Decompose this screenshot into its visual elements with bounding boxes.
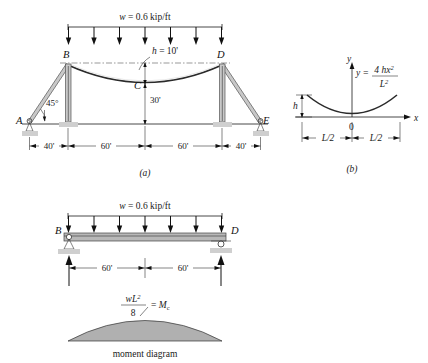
- panel-id-b: (b): [346, 164, 357, 175]
- load-arrow: [219, 27, 224, 45]
- load-label-a: w = 0.6 kip/ft: [119, 12, 171, 22]
- point-label-b: B: [63, 49, 70, 60]
- load-arrow: [193, 27, 198, 45]
- angle-label-a: 45°: [46, 98, 59, 108]
- equation-numerator: 4 hx2: [374, 64, 394, 75]
- dimension-label: 60': [178, 141, 189, 151]
- moment-diagram-caption: moment diagram: [113, 349, 178, 359]
- sag-label-h: h = 10': [152, 46, 178, 56]
- beam-bd: [64, 233, 226, 241]
- support-roller-d: [210, 241, 232, 253]
- half-span-label-left: L/2: [321, 133, 335, 143]
- panel-a-group: w = 0.6 kip/ft: [15, 12, 270, 179]
- moment-leader-line: [140, 307, 148, 316]
- parabola-equation: y = 4 hx2 L2: [355, 64, 398, 89]
- moment-equals: = Mc: [151, 300, 170, 311]
- point-label-d: D: [216, 49, 225, 60]
- anchor-cable-ab: [29, 64, 70, 123]
- panel-id-a: (a): [139, 168, 150, 179]
- load-arrow: [66, 27, 71, 45]
- dimension-label: 60': [102, 263, 113, 273]
- anchor-cable-de: [221, 64, 262, 123]
- sag-dimension-h: [143, 62, 146, 85]
- dimension-label: 60': [101, 141, 112, 151]
- load-arrow: [193, 216, 198, 233]
- sag-label-b: h: [293, 101, 298, 111]
- point-label-b-c: B: [55, 225, 62, 236]
- moment-denominator: 8: [131, 308, 136, 318]
- point-label-a: A: [15, 115, 23, 126]
- reaction-arrow-b: [66, 255, 73, 286]
- load-arrow: [117, 216, 122, 233]
- height-dimension-30: [143, 83, 146, 125]
- equation-lhs: y =: [355, 68, 369, 78]
- load-arrow: [142, 27, 147, 45]
- structural-figure: w = 0.6 kip/ft: [0, 0, 428, 363]
- load-arrow: [91, 27, 96, 45]
- dimension-label: 40': [236, 141, 247, 151]
- foundation-b: [59, 122, 78, 127]
- half-span-label-right: L/2: [369, 133, 383, 143]
- reaction-arrow-d: [218, 255, 225, 286]
- height-label-30: 30': [150, 95, 161, 105]
- equation-denominator: L2: [379, 78, 389, 89]
- point-label-d-c: D: [230, 225, 239, 236]
- load-label-c: w = 0.6 kip/ft: [119, 201, 171, 211]
- moment-numerator: wL2: [126, 293, 142, 304]
- dimension-label: 40': [44, 141, 55, 151]
- load-arrow: [142, 216, 147, 233]
- origin-label: 0: [349, 122, 354, 132]
- angle-arrowhead-a: [43, 117, 46, 122]
- load-arrow: [168, 216, 173, 233]
- load-arrow: [168, 27, 173, 45]
- foundation-d: [213, 122, 232, 127]
- load-arrows-a: [66, 27, 224, 45]
- moment-diagram-shape: [68, 321, 222, 342]
- figure-canvas: w = 0.6 kip/ft: [0, 0, 428, 363]
- load-arrow: [117, 27, 122, 45]
- load-arrow: [91, 216, 96, 233]
- moment-formula: wL2 8 = Mc: [121, 293, 170, 318]
- point-label-c: C: [134, 80, 142, 91]
- panel-c-group: w = 0.6 kip/ft B D: [55, 201, 239, 359]
- axis-label-y: y: [346, 54, 352, 64]
- x-axis-arrowhead: [404, 115, 411, 120]
- axis-label-x: x: [413, 113, 419, 123]
- dimension-label: 60': [178, 263, 189, 273]
- point-label-e: E: [262, 115, 270, 126]
- load-arrows-c: [66, 216, 224, 233]
- panel-b-group: h y x 0 y = 4 hx2 L2: [293, 54, 419, 175]
- load-arrow: [219, 216, 224, 233]
- load-arrow: [66, 216, 71, 233]
